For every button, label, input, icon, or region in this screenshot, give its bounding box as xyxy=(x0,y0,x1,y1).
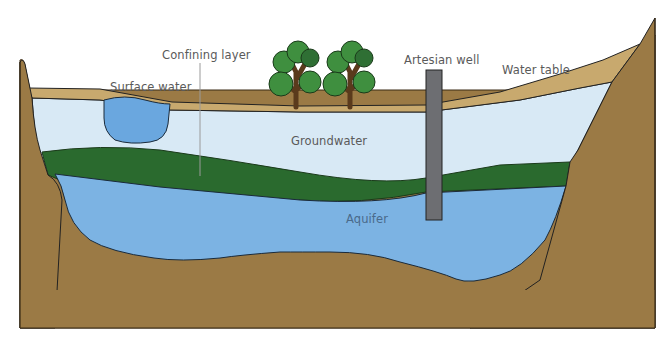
artesian-well-label: Artesian well xyxy=(404,53,480,67)
surface-water-label: Surface water xyxy=(110,80,192,94)
aquifer-cross-section-diagram xyxy=(0,0,664,346)
groundwater-label: Groundwater xyxy=(291,134,367,148)
confining-layer-label: Confining layer xyxy=(162,48,251,62)
bedrock-bottom xyxy=(20,290,655,328)
surface-water-pond xyxy=(104,97,170,143)
artesian-well xyxy=(426,70,442,220)
water-table-label: Water table xyxy=(502,63,570,77)
aquifer-label: Aquifer xyxy=(346,212,388,226)
